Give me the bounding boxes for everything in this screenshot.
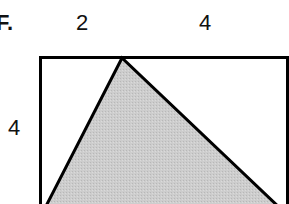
geometry-diagram	[0, 0, 289, 204]
shaded-triangle	[44, 58, 282, 204]
